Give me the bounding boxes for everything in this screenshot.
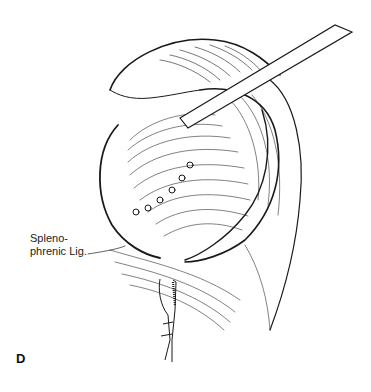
label-line-1: Spleno- [30, 232, 87, 245]
spleen-drawing [0, 0, 371, 392]
surgical-illustration: Spleno- phrenic Lig. D [0, 0, 371, 392]
forceps [159, 279, 176, 362]
spleen-outline [100, 125, 160, 258]
panel-letter: D [16, 351, 25, 366]
label-line-2: phrenic Lig. [30, 245, 87, 258]
splenophrenic-ligament-label: Spleno- phrenic Lig. [30, 232, 87, 258]
